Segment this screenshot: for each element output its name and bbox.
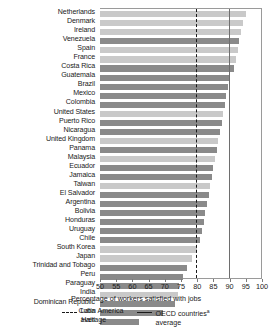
bar-row [100,37,261,46]
bar [100,138,218,144]
x-axis-tick-label: 95 [242,282,250,291]
bar [100,210,205,216]
bar [100,129,220,135]
bar [100,38,239,44]
category-label: Peru [0,270,98,279]
category-label: Spain [0,44,98,53]
bar [100,219,204,225]
category-label: United Kingdom [0,135,98,144]
category-label: Puerto Rico [0,117,98,126]
bar-row [100,64,261,73]
x-axis-tick-label: 90 [226,282,234,291]
bar [100,237,200,243]
category-label: Brazil [0,80,98,89]
bar [100,255,192,261]
category-label: Netherlands [0,8,98,17]
legend-label-line1: Latin America [80,307,123,315]
category-label: Ecuador [0,162,98,171]
x-axis-tick-label: 60 [128,282,136,291]
category-label: Japan [0,252,98,261]
category-label: Honduras [0,216,98,225]
x-axis-title: Percentage of workers satisfied with job… [0,294,272,303]
bar [100,192,209,198]
category-label: Paraguay [0,279,98,288]
category-label: Costa Rica [0,62,98,71]
legend-label-line1: OECD countries [155,310,206,318]
bar [100,120,222,126]
category-label: Ireland [0,26,98,35]
bar-row [100,19,261,28]
bar-row [100,28,261,37]
plot-area [100,8,262,279]
bar-row [100,10,261,19]
category-label: Nicaragua [0,126,98,135]
bar-row [100,146,261,155]
x-axis-tick-label: 70 [161,282,169,291]
legend-label: OECD countriesaaverage [155,307,209,328]
legend-label: Latin Americaaverage [80,307,123,324]
legend-label-line2: average [155,319,209,328]
bar [100,20,243,26]
bar [100,47,238,53]
category-label: Mexico [0,89,98,98]
bar [100,11,246,17]
category-label: Denmark [0,17,98,26]
category-label: Bolivia [0,207,98,216]
x-axis-tick-label: 50 [96,282,104,291]
job-satisfaction-bar-chart: NetherlandsDenmarkIrelandVenezuelaSpainF… [0,0,272,331]
x-axis-tick-label: 65 [145,282,153,291]
bar-row [100,209,261,218]
x-axis-tick-label: 55 [112,282,120,291]
legend-item-oecd-average: OECD countriesaaverage [137,307,209,328]
category-label: United States [0,108,98,117]
x-axis: 50556065707580859095100 [100,279,262,293]
category-label: Chile [0,234,98,243]
legend-label-line2: average [80,316,123,325]
dashed-line-icon [62,309,77,316]
bar [100,265,187,271]
solid-line-icon [137,309,152,316]
category-label: Trinidad and Tobago [0,261,98,270]
x-axis-tick-label: 85 [209,282,217,291]
bar [100,111,223,117]
bar-row [100,218,261,227]
bar [100,75,230,81]
x-axis-tick-label: 100 [256,282,268,291]
bar [100,183,210,189]
category-label: France [0,53,98,62]
bar-row [100,263,261,272]
legend-item-latam-average: Latin Americaaverage [62,307,123,328]
bar [100,29,241,35]
latin-america-average-line [196,9,197,278]
bar-row [100,164,261,173]
bar [100,56,236,62]
bar-row [100,73,261,82]
bar-row [100,100,261,109]
bar-row [100,119,261,128]
category-label: Argentina [0,198,98,207]
category-label: Malaysia [0,153,98,162]
bar-row [100,200,261,209]
x-axis-tick-label: 80 [193,282,201,291]
category-label: Jamaica [0,171,98,180]
bar [100,93,226,99]
category-label: South Korea [0,243,98,252]
bar-row [100,227,261,236]
bar-row [100,110,261,119]
category-label: Panama [0,144,98,153]
bar-row [100,55,261,64]
chart-legend: Latin AmericaaverageOECD countriesaavera… [0,307,272,328]
category-label: Guatemala [0,71,98,80]
bar [100,228,202,234]
bar-row [100,191,261,200]
bar-row [100,236,261,245]
category-label: El Salvador [0,189,98,198]
bar-row [100,46,261,55]
bar-row [100,182,261,191]
bar [100,246,197,252]
category-label: Taiwan [0,180,98,189]
bar [100,84,228,90]
bar [100,156,215,162]
bar [100,65,234,71]
bar [100,147,217,153]
